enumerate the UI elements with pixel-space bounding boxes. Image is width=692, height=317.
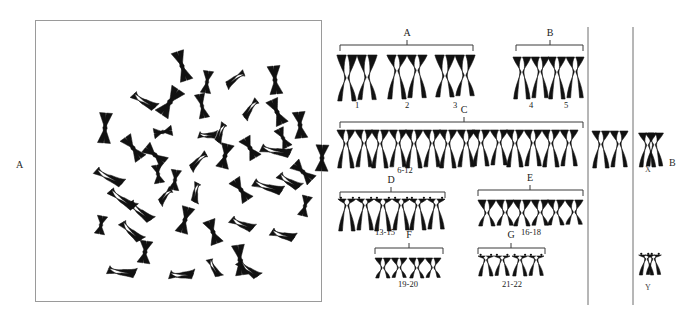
chromatid-left — [455, 55, 464, 96]
chromatid-left — [435, 55, 444, 97]
satellite-right — [370, 197, 372, 199]
chromosome-left — [435, 55, 455, 97]
chromosome-right — [355, 130, 373, 167]
chromatid-left — [387, 55, 396, 99]
spread-chromosome — [315, 145, 329, 171]
chromatid-left — [531, 57, 539, 98]
chromatid-left — [392, 199, 400, 230]
chromosome-pair-C-3 — [405, 130, 441, 168]
chromosome-left — [439, 130, 457, 168]
satellite-right — [423, 197, 425, 199]
spread-chromosome — [168, 169, 181, 190]
chromatid-right — [575, 200, 583, 224]
spread-chromosome — [274, 127, 292, 150]
chromatid-right — [434, 258, 441, 277]
chromatid-b — [97, 160, 126, 188]
chromatid-right — [541, 57, 549, 98]
pair-number-5: 5 — [564, 100, 568, 110]
chromosome-pair-E-2 — [513, 200, 549, 226]
spread-chromosome — [298, 195, 313, 217]
chromosome-pair-A-3 — [435, 55, 475, 97]
chromatid-b — [272, 221, 297, 243]
chromosome-left — [338, 197, 356, 231]
satellite-right — [441, 197, 443, 199]
chromosome-left — [374, 197, 392, 231]
group-range-D: 13-15 — [375, 227, 395, 237]
chromatid-b — [214, 125, 233, 145]
chromosome-right — [423, 130, 441, 167]
chromosome-left — [542, 130, 560, 167]
spread-chromosome — [292, 111, 308, 138]
chromatid-right — [488, 200, 496, 226]
chromatid-right — [347, 130, 355, 168]
chromatid-left — [513, 200, 521, 226]
chromosome-pair-C-5 — [472, 130, 508, 166]
satellite-left — [530, 254, 532, 256]
spread-chromosome — [203, 219, 223, 246]
chromatid-right — [398, 55, 407, 99]
chromatid-right — [620, 131, 628, 167]
chromatid-left — [610, 131, 618, 167]
spread-chromosome — [151, 164, 164, 184]
chromosome-right — [457, 130, 475, 167]
chromosome-right — [391, 258, 407, 277]
chromatid-left — [513, 57, 521, 99]
chromatid-left — [357, 55, 366, 100]
chromosome-right — [610, 131, 628, 167]
chromosome-pair-c-extra — [592, 131, 628, 168]
chromatid-right — [557, 200, 565, 225]
satellite-left — [480, 254, 482, 256]
satellite-left — [411, 197, 413, 199]
spread-chromosome — [200, 70, 213, 93]
chromatid-a — [107, 185, 135, 215]
chromatid-right — [418, 55, 427, 98]
chromatid-right — [500, 130, 508, 165]
group-range-G: 21-22 — [502, 279, 522, 289]
chromosome-pair-G-1 — [478, 254, 510, 276]
chromatid-right — [482, 130, 490, 166]
chromatid-left — [565, 200, 573, 224]
bracket-line — [340, 45, 473, 51]
group-range-F: 19-20 — [398, 279, 418, 289]
metaphase-spread — [93, 50, 329, 286]
spread-chromosome — [267, 65, 283, 94]
chromosome-right — [427, 197, 445, 229]
chromosome-pair-F-2 — [409, 258, 441, 278]
chromatid-left — [524, 130, 532, 166]
chromatid-left — [391, 258, 398, 277]
chromosome-left — [592, 131, 610, 168]
chromatid-right — [400, 258, 407, 277]
spread-chromosome — [126, 195, 155, 226]
chromosome-right — [490, 130, 508, 165]
chromosome-left — [337, 55, 357, 101]
chromosome-pair-G-2 — [512, 254, 544, 276]
group-range-C: 6-12 — [397, 165, 413, 175]
pair-number-1: 1 — [355, 100, 359, 110]
chromatid-left — [371, 130, 379, 168]
spread-chromosome — [269, 221, 297, 248]
chromatid-left — [547, 200, 555, 225]
chromatid-left — [405, 130, 413, 168]
chromosome-left — [409, 258, 425, 278]
chromatid-left — [531, 200, 539, 225]
spread-chromosome — [169, 262, 195, 285]
chromatid-right — [419, 199, 427, 230]
chromatid-right — [415, 130, 423, 168]
spread-chromosome — [186, 182, 207, 204]
spread-chromosome — [94, 215, 107, 235]
satellite-left — [376, 197, 378, 199]
chromatid-b — [134, 86, 159, 112]
chromosome-right — [356, 197, 374, 230]
chromatid-right — [381, 130, 389, 168]
chromatid-right — [516, 130, 524, 167]
chromatid-right — [383, 258, 390, 278]
chromatid-left — [639, 255, 646, 275]
chromosome-pair-C-4 — [439, 130, 475, 168]
chromosome-right — [524, 130, 542, 166]
satellite-right — [490, 254, 492, 256]
chromatid-right — [558, 57, 566, 99]
group-bracket-A — [340, 40, 473, 51]
chromosome-left — [409, 197, 427, 230]
chromosome-pair-C-2 — [371, 130, 407, 168]
chromosome-Y-right — [646, 253, 662, 275]
